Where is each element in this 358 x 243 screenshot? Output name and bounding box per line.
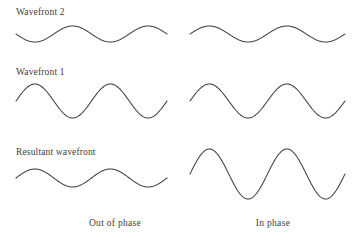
label-resultant-wavefront: Resultant wavefront (16, 147, 96, 158)
wave-left-wavefront1 (16, 84, 167, 118)
caption-out-of-phase: Out of phase (60, 218, 170, 229)
wave-right-resultant (190, 149, 345, 199)
label-wavefront-2: Wavefront 2 (16, 7, 65, 18)
wave-right-wavefront1 (190, 84, 345, 118)
caption-in-phase: In phase (228, 218, 318, 229)
wave-left-wavefront2 (16, 26, 167, 42)
label-wavefront-1: Wavefront 1 (16, 67, 65, 78)
wave-canvas (0, 0, 358, 243)
wave-right-wavefront2 (190, 26, 345, 42)
wave-interference-figure: Wavefront 2 Wavefront 1 Resultant wavefr… (0, 0, 358, 243)
wave-left-resultant (16, 169, 167, 187)
